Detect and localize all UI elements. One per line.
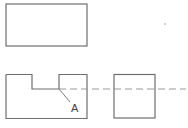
label-a: A [71,102,79,114]
projection-diagram: A [0,0,188,128]
leader-line [59,89,70,102]
side-view-square [114,75,155,119]
point-mark [164,23,166,25]
top-view-rectangle [6,4,87,46]
